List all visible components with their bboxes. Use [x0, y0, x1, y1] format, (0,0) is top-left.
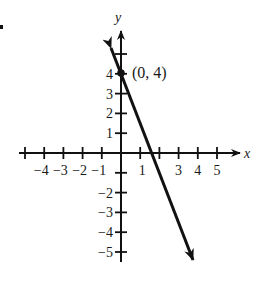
x-tick-label: 4 [194, 163, 201, 178]
x-tick-label: 1 [139, 163, 146, 178]
x-tick-label: −4 [34, 163, 49, 178]
x-tick-labels: −4−3−2−11345 [34, 163, 221, 178]
bullet-dot [0, 25, 3, 29]
point-0-4 [117, 69, 125, 77]
point-label: (0, 4) [132, 64, 167, 82]
x-tick-label: 3 [175, 163, 182, 178]
y-tick-label: 1 [106, 126, 113, 141]
y-axis-label: y [113, 10, 122, 25]
x-tick-label: −3 [53, 163, 68, 178]
x-axis-label: x [243, 146, 251, 161]
y-tick-label: −3 [98, 205, 113, 220]
y-tick-label: 3 [106, 87, 113, 102]
y-tick-label: 2 [106, 106, 113, 121]
x-tick-label: 5 [214, 163, 221, 178]
y-tick-label: −4 [98, 225, 113, 240]
y-tick-label: 4 [106, 67, 113, 82]
y-tick-label: −5 [98, 245, 113, 260]
coordinate-plot: −4−3−2−11345 4321−2−3−4−5 x y (0, 4) [0, 0, 259, 281]
x-tick-label: −2 [72, 163, 87, 178]
x-tick-label: −1 [91, 163, 106, 178]
y-tick-label: −2 [98, 186, 113, 201]
